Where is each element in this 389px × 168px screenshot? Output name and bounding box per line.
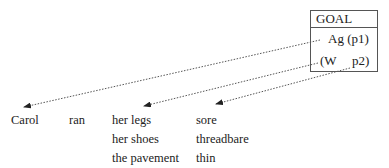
word-carol: Carol [11, 113, 39, 127]
word-her-shoes: her shoes [112, 132, 159, 146]
goal-agent-slot: Ag (p1) [328, 31, 369, 47]
word-ran: ran [69, 113, 85, 127]
goal-w-slot: (W [320, 53, 337, 69]
arrow-ag-to-carol [24, 40, 320, 107]
word-threadbare: threadbare [196, 132, 249, 146]
word-her-legs: her legs [112, 113, 151, 127]
word-thin: thin [196, 151, 215, 165]
goal-title: GOAL [311, 11, 377, 28]
word-the-pavement: the pavement [112, 151, 179, 165]
goal-box: GOAL Ag (p1) (W p2) [310, 10, 378, 72]
goal-p2-slot: p2) [352, 53, 369, 69]
arrow-p2-to-sore [216, 68, 350, 104]
word-sore: sore [196, 113, 217, 127]
